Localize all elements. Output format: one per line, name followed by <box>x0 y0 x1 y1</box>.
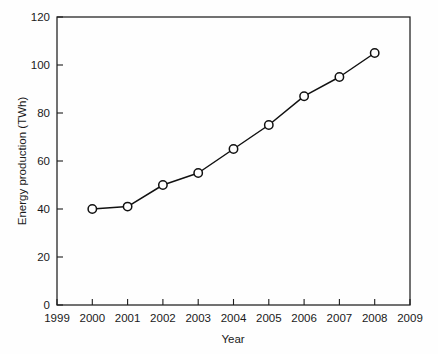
y-tick-label: 60 <box>37 155 50 167</box>
x-tick-label: 2004 <box>221 312 247 324</box>
y-tick-label: 80 <box>37 107 50 119</box>
data-point-marker <box>229 145 237 153</box>
chart-figure: 020406080100120 199920002001200220032004… <box>0 0 438 354</box>
x-tick-label: 2009 <box>397 312 423 324</box>
x-tick-label: 2008 <box>362 312 388 324</box>
x-tick-label: 2003 <box>185 312 211 324</box>
x-tick-label: 2007 <box>327 312 353 324</box>
data-point-marker <box>88 205 96 213</box>
y-tick-label: 20 <box>37 251 50 263</box>
x-tick-label: 2001 <box>115 312 141 324</box>
x-tick-label: 1999 <box>44 312 70 324</box>
data-point-marker <box>123 202 131 210</box>
y-tick-label: 120 <box>31 11 50 23</box>
data-point-marker <box>300 92 308 100</box>
line-chart-canvas: 020406080100120 199920002001200220032004… <box>0 0 438 354</box>
x-tick-label: 2002 <box>150 312 176 324</box>
data-point-marker <box>265 121 273 129</box>
data-point-marker <box>371 49 379 57</box>
x-tick-label: 2005 <box>256 312 282 324</box>
data-point-marker <box>159 181 167 189</box>
y-axis-title: Energy production (TWh) <box>16 97 28 226</box>
data-point-marker <box>335 73 343 81</box>
x-axis-title: Year <box>221 333 244 345</box>
data-point-marker <box>194 169 202 177</box>
y-tick-label: 0 <box>44 299 50 311</box>
x-tick-label: 2006 <box>291 312 317 324</box>
plot-area-background <box>57 17 410 305</box>
y-tick-label: 100 <box>31 59 50 71</box>
y-tick-label: 40 <box>37 203 50 215</box>
x-tick-label: 2000 <box>80 312 106 324</box>
x-axis-tick-labels: 1999200020012002200320042005200620072008… <box>44 312 423 324</box>
